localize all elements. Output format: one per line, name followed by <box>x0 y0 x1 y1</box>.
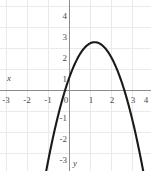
y-tick-label-4: 4 <box>56 12 67 21</box>
y-tick-label--3: -3 <box>54 156 67 165</box>
x-tick-label-1: 1 <box>89 96 94 105</box>
x-tick-label--1: -1 <box>44 96 52 105</box>
x-tick-label--2: -2 <box>23 96 31 105</box>
y-tick-label--2: -2 <box>54 135 67 144</box>
x-tick-label-3: 3 <box>131 96 136 105</box>
x-tick-label-0: 0 <box>64 96 69 105</box>
y-axis-label: y <box>73 159 77 168</box>
x-tick-label--3: -3 <box>2 96 10 105</box>
x-tick-label-2: 2 <box>110 96 115 105</box>
x-tick-label-4: 4 <box>144 96 149 105</box>
x-axis-label: x <box>7 74 11 83</box>
y-tick-label-1: 1 <box>56 75 67 84</box>
y-tick-label-3: 3 <box>56 33 67 42</box>
parabola-graph: -3 -2 -1 0 1 2 3 4 4 3 2 1 -1 -2 -3 x y <box>0 0 151 171</box>
y-tick-label--1: -1 <box>54 114 67 123</box>
y-tick-label-2: 2 <box>56 54 67 63</box>
parabola-curve <box>0 0 151 171</box>
